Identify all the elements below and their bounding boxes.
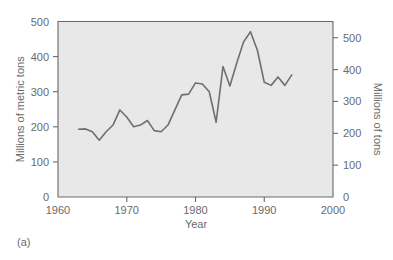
y-axis-tick-label: 400 bbox=[31, 51, 49, 63]
panel-label: (a) bbox=[17, 236, 30, 248]
y2-axis-tick-label: 200 bbox=[343, 127, 361, 139]
y-axis-tick-label: 300 bbox=[31, 86, 49, 98]
y-axis-title: Millions of metric tons bbox=[14, 56, 26, 162]
y2-axis-tick-label: 500 bbox=[343, 32, 361, 44]
figure-panel: 0100200300400500010020030040050019601970… bbox=[0, 0, 393, 260]
x-axis-tick-label: 1990 bbox=[252, 204, 276, 216]
x-axis-tick-label: 1970 bbox=[115, 204, 139, 216]
line-chart: 0100200300400500010020030040050019601970… bbox=[0, 0, 393, 260]
y2-axis-title: Millions of tons bbox=[372, 83, 384, 156]
x-axis-tick-label: 1980 bbox=[183, 204, 207, 216]
y2-axis-tick-label: 400 bbox=[343, 64, 361, 76]
y-axis-tick-label: 200 bbox=[31, 121, 49, 133]
y-axis-tick-label: 500 bbox=[31, 16, 49, 28]
y-axis-tick-label: 100 bbox=[31, 156, 49, 168]
y2-axis-tick-label: 100 bbox=[343, 159, 361, 171]
y2-axis-tick-label: 0 bbox=[343, 191, 349, 203]
y2-axis-tick-label: 300 bbox=[343, 95, 361, 107]
x-axis-title: Year bbox=[185, 218, 208, 230]
plot-area-background bbox=[58, 22, 333, 198]
x-axis-tick-label: 2000 bbox=[321, 204, 345, 216]
x-axis-tick-label: 1960 bbox=[46, 204, 70, 216]
y-axis-tick-label: 0 bbox=[43, 191, 49, 203]
